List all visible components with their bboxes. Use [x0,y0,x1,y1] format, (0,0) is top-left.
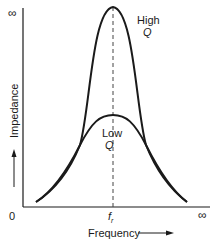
high-q-label-line2: Q [143,27,152,38]
right-arrow-icon [166,231,174,236]
high-q-curve [36,7,187,202]
up-arrow-icon [12,149,17,157]
x-infinity-label: ∞ [198,209,207,221]
x-axis-title: Frequency [88,228,140,239]
resonance-diagram [0,0,221,245]
origin-label: 0 [9,211,15,222]
y-axis-title: Impedance [9,84,20,138]
y-infinity-label: ∞ [8,7,17,19]
high-q-label-line1: High [137,15,160,26]
low-q-label-line2: Q [105,140,114,151]
resonance-subscript: r [111,217,113,224]
resonance-frequency-label: fr [108,211,113,224]
low-q-label-line1: Low [102,128,122,139]
